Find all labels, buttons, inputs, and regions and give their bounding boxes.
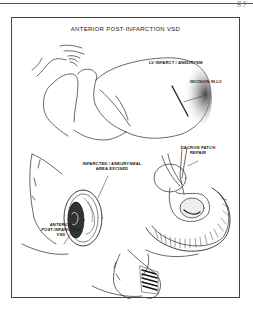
label-incision: INCISION IN LV bbox=[190, 79, 222, 84]
label-excised: INFARCTED / ANEURYSMAL AREA EXCISED bbox=[80, 161, 144, 171]
illustration-canvas bbox=[12, 18, 241, 299]
figure-frame: ANTERIOR POST-INFARCTION VSD bbox=[11, 17, 240, 298]
closure-drawing bbox=[92, 250, 161, 299]
label-dacron: DACRON PATCH REPAIR bbox=[175, 145, 221, 155]
label-excised-line2: AREA EXCISED bbox=[80, 166, 144, 171]
page-corner-mark: g y bbox=[237, 0, 247, 7]
label-vsd-line3: VSD bbox=[38, 232, 84, 237]
label-lv-infarct: LV INFARCT / ANEURYSM bbox=[149, 60, 203, 65]
page-top-rule bbox=[0, 3, 253, 4]
patch-repair-drawing bbox=[146, 148, 230, 257]
label-dacron-line2: REPAIR bbox=[175, 150, 221, 155]
label-vsd: ANTERIOR POST-INFARCTION VSD bbox=[38, 222, 84, 237]
